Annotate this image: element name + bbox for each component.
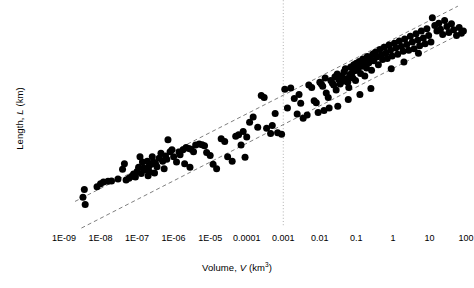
x-tick-label: 1E-06: [162, 233, 186, 243]
x-tick-label: 0.001: [272, 233, 295, 243]
x-tick-label: 10: [424, 233, 434, 243]
x-axis-tick-labels: 1E-091E-081E-071E-061E-050.00010.0010.01…: [0, 0, 474, 288]
x-tick-label: 1E-07: [125, 233, 149, 243]
scatter-plot-figure: 1001010.10.010.001 1E-091E-081E-071E-061…: [0, 0, 474, 288]
x-tick-label: 1E-05: [198, 233, 222, 243]
x-tick-label: 1: [390, 233, 395, 243]
x-tick-label: 1E-09: [52, 233, 76, 243]
x-tick-label: 0.0001: [233, 233, 261, 243]
x-tick-label: 1E-08: [89, 233, 113, 243]
x-tick-label: 100: [458, 233, 473, 243]
x-axis-title: Volume, V (km3): [0, 261, 474, 273]
y-axis-title: Length, L (km): [14, 69, 25, 169]
x-tick-label: 0.01: [311, 233, 329, 243]
x-tick-label: 0.1: [350, 233, 363, 243]
